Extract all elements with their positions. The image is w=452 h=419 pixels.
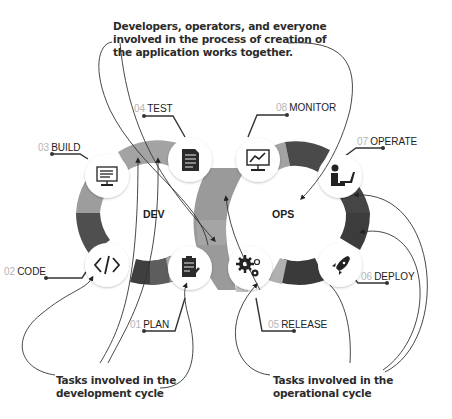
operational-cycle-callout-line-2: operational cycle xyxy=(273,387,413,400)
stage-label-test: 04TEST xyxy=(134,103,173,115)
stage-number: 05 xyxy=(268,319,279,330)
stage-number: 02 xyxy=(4,266,15,277)
operational-cycle-callout-line-1: Tasks involved in the xyxy=(273,374,413,387)
stage-name: PLAN xyxy=(143,319,169,330)
stage-label-build: 03BUILD xyxy=(38,142,81,154)
development-cycle-callout-line-1: Tasks involved in the xyxy=(56,374,196,387)
stage-name: MONITOR xyxy=(289,102,336,113)
stage-label-code: 02CODE xyxy=(4,266,46,278)
stage-name: CODE xyxy=(17,266,46,277)
collaboration-callout-line-3: the application works together. xyxy=(113,46,353,59)
checklist-document-icon xyxy=(182,149,199,171)
stage-name: DEPLOY xyxy=(374,271,415,282)
dev-cycle-label: DEV xyxy=(143,208,165,220)
collaboration-callout: Developers, operators, and everyone invo… xyxy=(113,20,353,59)
stage-label-plan: 01PLAN xyxy=(130,319,169,331)
stage-number: 08 xyxy=(276,102,287,113)
stage-label-release: 05RELEASE xyxy=(268,319,327,331)
development-cycle-callout-line-2: development cycle xyxy=(56,387,196,400)
ops-cycle-label: OPS xyxy=(272,208,294,220)
stage-number: 03 xyxy=(38,142,49,153)
operational-cycle-callout: Tasks involved in the operational cycle xyxy=(273,374,413,400)
collaboration-callout-line-1: Developers, operators, and everyone xyxy=(113,20,353,33)
stage-name: OPERATE xyxy=(370,136,417,147)
stage-label-deploy: 06DEPLOY xyxy=(361,271,415,283)
stage-name: TEST xyxy=(147,103,173,114)
stage-number: 01 xyxy=(130,319,141,330)
stage-number: 07 xyxy=(357,136,368,147)
stage-name: BUILD xyxy=(51,142,80,153)
stage-number: 06 xyxy=(361,271,372,282)
stage-label-operate: 07OPERATE xyxy=(357,136,417,148)
stage-label-monitor: 08MONITOR xyxy=(276,102,336,114)
collaboration-callout-line-2: involved in the process of creation of xyxy=(113,33,353,46)
development-cycle-callout: Tasks involved in the development cycle xyxy=(56,374,196,400)
stage-number: 04 xyxy=(134,103,145,114)
stage-name: RELEASE xyxy=(281,319,327,330)
devops-infinity-diagram xyxy=(0,0,452,419)
